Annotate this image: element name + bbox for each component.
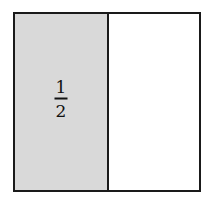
fraction-label: 1 2 (55, 79, 68, 120)
denominator: 2 (56, 102, 67, 119)
fraction-bar (55, 98, 68, 100)
numerator: 1 (56, 79, 67, 96)
unshaded-half (109, 14, 199, 190)
whole-square: 1 2 (13, 12, 201, 192)
shaded-half: 1 2 (15, 14, 109, 190)
